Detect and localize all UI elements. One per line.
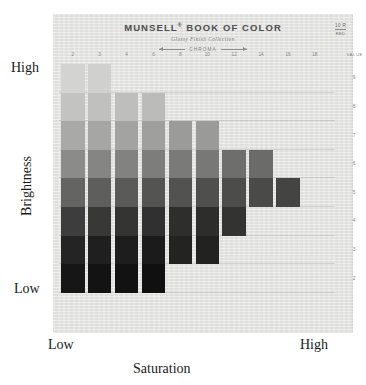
brightness-high-label: High <box>11 60 39 76</box>
chroma-tick-3: 3 <box>93 52 107 57</box>
color-chip-c8-v3 <box>169 236 193 265</box>
arrow-right-icon <box>221 49 247 50</box>
hue-code: 10 R <box>335 23 346 29</box>
color-chip-c2-v5 <box>61 178 85 207</box>
value-axis-heading: VALUE <box>346 52 363 57</box>
value-tick-7: 7 <box>349 133 359 138</box>
book-title: MUNSELL® BOOK OF COLOR <box>53 22 353 33</box>
color-chip-c8-v5 <box>169 178 193 207</box>
color-chip-c2-v7 <box>61 121 85 150</box>
saturation-high-label: High <box>300 337 328 353</box>
book-title-munsell: MUNSELL <box>124 22 178 33</box>
value-tick-9: 9 <box>349 75 359 80</box>
color-chip-c10-v4 <box>196 207 220 236</box>
value-tick-3: 3 <box>349 247 359 252</box>
color-chip-c16-v5 <box>276 178 300 207</box>
value-tick-8: 8 <box>349 104 359 109</box>
color-chip-c2-v4 <box>61 207 85 236</box>
color-chip-c10-v5 <box>196 178 220 207</box>
hue-name: RED <box>335 31 346 36</box>
color-chip-c6-v6 <box>142 150 166 179</box>
color-chip-c3-v3 <box>88 236 112 265</box>
color-chip-c6-v3 <box>142 236 166 265</box>
color-chip-c3-v9 <box>88 64 112 93</box>
chroma-tick-18: 18 <box>308 52 322 57</box>
color-chip-c12-v5 <box>222 178 246 207</box>
chroma-tick-10: 10 <box>200 52 214 57</box>
brightness-axis-title: Brightness <box>19 146 35 226</box>
color-chip-c2-v9 <box>61 64 85 93</box>
color-chip-c4-v2 <box>115 264 139 293</box>
color-chip-c3-v7 <box>88 121 112 150</box>
arrow-left-icon <box>159 49 185 50</box>
color-chip-c4-v8 <box>115 93 139 122</box>
value-tick-2: 2 <box>349 276 359 281</box>
color-chip-c2-v3 <box>61 236 85 265</box>
color-chip-c8-v4 <box>169 207 193 236</box>
color-chip-c3-v2 <box>88 264 112 293</box>
color-chip-c8-v6 <box>169 150 193 179</box>
brightness-low-label: Low <box>14 281 40 297</box>
color-chip-c2-v6 <box>61 150 85 179</box>
value-tick-4: 4 <box>349 218 359 223</box>
color-chip-c4-v4 <box>115 207 139 236</box>
color-chip-c3-v5 <box>88 178 112 207</box>
color-chip-c12-v4 <box>222 207 246 236</box>
color-chip-c10-v7 <box>196 121 220 150</box>
chroma-tick-8: 8 <box>173 52 187 57</box>
color-chip-c4-v7 <box>115 121 139 150</box>
color-chip-c3-v6 <box>88 150 112 179</box>
color-chip-c6-v2 <box>142 264 166 293</box>
color-chip-c8-v7 <box>169 121 193 150</box>
color-chip-c3-v8 <box>88 93 112 122</box>
chroma-tick-14: 14 <box>254 52 268 57</box>
color-chip-c2-v8 <box>61 93 85 122</box>
color-chip-c14-v5 <box>249 178 273 207</box>
color-chip-c14-v6 <box>249 150 273 179</box>
color-chip-c4-v3 <box>115 236 139 265</box>
chroma-tick-6: 6 <box>146 52 160 57</box>
color-chip-c2-v2 <box>61 264 85 293</box>
color-chip-c12-v6 <box>222 150 246 179</box>
value-tick-6: 6 <box>349 161 359 166</box>
munsell-color-page: MUNSELL® BOOK OF COLOR Glossy Finish Col… <box>53 14 353 333</box>
saturation-low-label: Low <box>48 337 74 353</box>
value-tick-5: 5 <box>349 190 359 195</box>
color-chip-c10-v6 <box>196 150 220 179</box>
hue-badge: 10 R RED <box>335 23 346 36</box>
color-chip-c6-v4 <box>142 207 166 236</box>
chroma-tick-2: 2 <box>66 52 80 57</box>
color-chip-c6-v7 <box>142 121 166 150</box>
chroma-tick-4: 4 <box>120 52 134 57</box>
book-subtitle: Glossy Finish Collection <box>53 36 353 42</box>
color-chip-c6-v8 <box>142 93 166 122</box>
book-title-rest: BOOK OF COLOR <box>183 22 282 33</box>
chroma-tick-12: 12 <box>227 52 241 57</box>
page-header: MUNSELL® BOOK OF COLOR Glossy Finish Col… <box>53 22 353 52</box>
color-chip-c4-v6 <box>115 150 139 179</box>
chroma-tick-16: 16 <box>281 52 295 57</box>
color-chip-c3-v4 <box>88 207 112 236</box>
chip-grid: VALUE 23468101214161898765432 <box>59 62 347 320</box>
color-chip-c6-v5 <box>142 178 166 207</box>
saturation-axis-title: Saturation <box>133 361 191 377</box>
color-chip-c4-v5 <box>115 178 139 207</box>
color-chip-c10-v3 <box>196 236 220 265</box>
